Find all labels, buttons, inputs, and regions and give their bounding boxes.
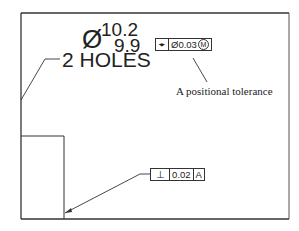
position-icon: ⌖: [156, 39, 169, 50]
perpendicularity-feature-control-frame: ⊥ 0.02 A: [150, 168, 205, 181]
perpendicularity-tolerance: 0.02: [170, 169, 194, 180]
caption: A positional tolerance: [176, 85, 273, 97]
position-tolerance: Ø0.03 M: [169, 39, 211, 50]
position-feature-control-frame: ⌖ Ø0.03 M: [155, 38, 212, 51]
perp-leader: [65, 174, 150, 213]
arrowhead: [65, 208, 72, 213]
holes-note: 2 HOLES: [62, 49, 151, 70]
hole-leader: [21, 59, 60, 100]
position-tolerance-value: Ø0.03: [171, 39, 197, 50]
caption-pointer: [193, 58, 207, 82]
perpendicularity-icon: ⊥: [151, 169, 170, 180]
drawing-geometry: [0, 0, 299, 231]
max-material-condition-icon: M: [198, 39, 209, 50]
datum-reference: A: [194, 169, 204, 180]
